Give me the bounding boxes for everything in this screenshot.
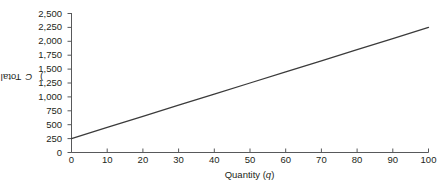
- x-tick-label: 100: [421, 155, 437, 165]
- x-tick-label: 0: [69, 155, 74, 165]
- x-tick-label: 10: [102, 155, 113, 165]
- x-tick-label: 90: [388, 155, 399, 165]
- series-line: [72, 27, 429, 138]
- x-tick-label: 70: [316, 155, 327, 165]
- x-axis-tick-labels: 0102030405060708090100: [0, 155, 445, 171]
- x-tick-label: 20: [138, 155, 149, 165]
- x-tick-label: 30: [173, 155, 184, 165]
- total-cost-line-chart: Total cost (C) 02505007501,0001,2501,500…: [0, 0, 445, 191]
- x-axis-title-paren: ): [271, 169, 274, 180]
- x-tick-label: 80: [352, 155, 363, 165]
- x-axis-title-text: Quantity (: [225, 169, 266, 180]
- x-tick-label: 60: [280, 155, 291, 165]
- data-series-lines: [72, 27, 429, 138]
- x-tick-label: 50: [245, 155, 256, 165]
- x-axis-title: Quantity (q): [71, 170, 428, 180]
- x-tick-label: 40: [209, 155, 220, 165]
